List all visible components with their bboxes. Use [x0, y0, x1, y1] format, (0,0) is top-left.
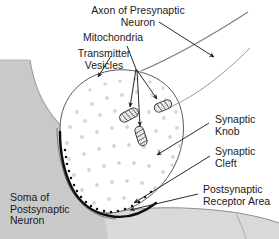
label-postsynaptic-receptor-area: Postsynaptic Receptor Area [203, 184, 270, 207]
label-synaptic-cleft-line1: Synaptic [215, 146, 255, 158]
label-mitochondria-line1: Mitochondria [58, 32, 168, 44]
label-soma-line3: Neuron [10, 215, 70, 227]
label-transmitter-vesicles-line2: Vesicles [58, 60, 150, 72]
label-axon-line1: Axon of Presynaptic [78, 5, 198, 17]
label-axon-of-presynaptic-neuron: Axon of Presynaptic Neuron [78, 5, 198, 28]
label-postsynaptic-receptor-area-line1: Postsynaptic [203, 184, 270, 196]
label-synaptic-knob-line1: Synaptic [215, 114, 255, 126]
label-postsynaptic-receptor-area-line2: Receptor Area [203, 196, 270, 208]
label-soma-line1: Soma of [10, 192, 70, 204]
label-transmitter-vesicles-line1: Transmitter [58, 48, 150, 60]
label-mitochondria: Mitochondria [58, 32, 168, 44]
postsynaptic-membrane-band [104, 208, 279, 239]
synaptic-knob-shape [60, 70, 183, 213]
label-synaptic-knob: Synaptic Knob [215, 114, 255, 137]
label-synaptic-knob-line2: Knob [215, 126, 255, 138]
label-transmitter-vesicles: Transmitter Vesicles [58, 48, 150, 71]
label-synaptic-cleft-line2: Cleft [215, 158, 255, 170]
label-axon-line2: Neuron [78, 17, 198, 29]
label-synaptic-cleft: Synaptic Cleft [215, 146, 255, 169]
synapse-diagram: Axon of Presynaptic Neuron Mitochondria … [0, 0, 279, 239]
label-soma-of-postsynaptic-neuron: Soma of Postsynaptic Neuron [10, 192, 70, 227]
